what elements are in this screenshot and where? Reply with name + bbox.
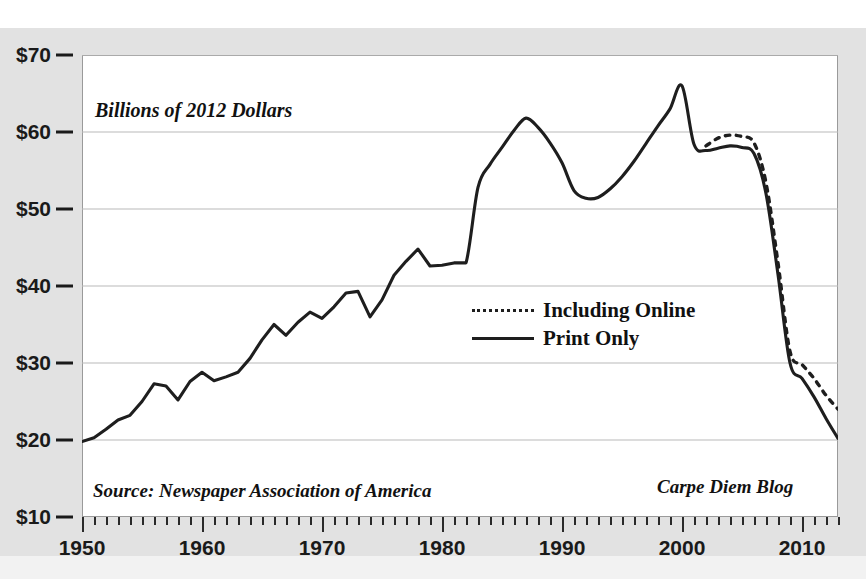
- x-tick-1986: [514, 517, 516, 525]
- x-tick-1987: [526, 517, 528, 525]
- y-axis-label-10: $10: [16, 505, 51, 529]
- y-axis-tick-60: [56, 131, 73, 134]
- x-tick-1964: [250, 517, 252, 525]
- x-tick-1957: [166, 517, 168, 525]
- legend-label-including-online: Including Online: [543, 298, 695, 323]
- y-axis-label-50: $50: [16, 197, 51, 221]
- y-axis-tick-20: [56, 439, 73, 442]
- x-tick-1958: [178, 517, 180, 525]
- y-axis-tick-70: [56, 54, 73, 57]
- x-axis-label-1970: 1970: [299, 536, 346, 560]
- series-line-print-only: [82, 85, 838, 442]
- x-tick-1967: [286, 517, 288, 525]
- x-tick-1997: [646, 517, 648, 525]
- y-axis-title: Billions of 2012 Dollars: [95, 99, 292, 122]
- legend-swatch-dashed-icon: [472, 309, 534, 312]
- x-tick-1959: [190, 517, 192, 525]
- x-tick-1983: [478, 517, 480, 525]
- x-tick-1996: [634, 517, 636, 525]
- x-tick-1973: [358, 517, 360, 525]
- x-axis-label-1960: 1960: [179, 536, 226, 560]
- x-tick-1968: [298, 517, 300, 525]
- chart-screenshot: $10$20$30$40$50$60$70 195019601970198019…: [0, 0, 866, 579]
- x-tick-1999: [670, 517, 672, 525]
- y-axis-tick-50: [56, 208, 73, 211]
- x-tick-2010: [802, 517, 804, 532]
- x-tick-1993: [598, 517, 600, 525]
- x-axis-label-2000: 2000: [659, 536, 706, 560]
- legend-item-including-online: Including Online: [472, 296, 695, 324]
- x-tick-1978: [418, 517, 420, 525]
- x-tick-1979: [430, 517, 432, 525]
- x-tick-1985: [502, 517, 504, 525]
- y-axis-tick-10: [56, 516, 73, 519]
- x-tick-1974: [370, 517, 372, 525]
- x-tick-1980: [442, 517, 444, 532]
- x-tick-2003: [718, 517, 720, 525]
- y-axis-tick-30: [56, 362, 73, 365]
- chart-plot-area: [82, 55, 838, 517]
- x-tick-1971: [334, 517, 336, 525]
- x-tick-1961: [214, 517, 216, 525]
- x-tick-2008: [778, 517, 780, 525]
- y-axis-label-30: $30: [16, 351, 51, 375]
- x-tick-1982: [466, 517, 468, 525]
- x-tick-1952: [106, 517, 108, 525]
- x-tick-1976: [394, 517, 396, 525]
- x-tick-2000: [682, 517, 684, 532]
- x-tick-2004: [730, 517, 732, 525]
- x-tick-1990: [562, 517, 564, 532]
- x-tick-1975: [382, 517, 384, 525]
- x-tick-2005: [742, 517, 744, 525]
- x-tick-2009: [790, 517, 792, 525]
- series-line-including-online: [706, 135, 838, 409]
- x-tick-1955: [142, 517, 144, 525]
- x-tick-1994: [610, 517, 612, 525]
- x-tick-1981: [454, 517, 456, 525]
- blog-attribution: Carpe Diem Blog: [657, 476, 793, 498]
- x-tick-2001: [694, 517, 696, 525]
- x-tick-1992: [586, 517, 588, 525]
- source-note: Source: Newspaper Association of America: [93, 480, 431, 502]
- x-tick-1972: [346, 517, 348, 525]
- x-tick-1977: [406, 517, 408, 525]
- y-axis: $10$20$30$40$50$60$70: [0, 0, 82, 579]
- x-axis-label-1990: 1990: [539, 536, 586, 560]
- x-tick-2002: [706, 517, 708, 525]
- x-tick-1950: [82, 517, 84, 532]
- x-tick-1989: [550, 517, 552, 525]
- y-axis-label-70: $70: [16, 43, 51, 67]
- x-tick-2011: [814, 517, 816, 525]
- x-tick-1954: [130, 517, 132, 525]
- x-tick-2012: [826, 517, 828, 525]
- x-tick-1963: [238, 517, 240, 525]
- x-tick-1966: [274, 517, 276, 525]
- legend-item-print-only: Print Only: [472, 324, 695, 352]
- x-tick-2006: [754, 517, 756, 525]
- chart-legend: Including Online Print Only: [472, 296, 695, 352]
- x-tick-1956: [154, 517, 156, 525]
- x-tick-1998: [658, 517, 660, 525]
- y-axis-label-40: $40: [16, 274, 51, 298]
- x-tick-1969: [310, 517, 312, 525]
- x-tick-1970: [322, 517, 324, 532]
- x-tick-2007: [766, 517, 768, 525]
- x-tick-1984: [490, 517, 492, 525]
- x-axis-label-2010: 2010: [779, 536, 826, 560]
- x-tick-1951: [94, 517, 96, 525]
- x-tick-1965: [262, 517, 264, 525]
- x-tick-1995: [622, 517, 624, 525]
- y-axis-label-20: $20: [16, 428, 51, 452]
- y-axis-tick-40: [56, 285, 73, 288]
- y-axis-label-60: $60: [16, 120, 51, 144]
- x-tick-1962: [226, 517, 228, 525]
- x-tick-1991: [574, 517, 576, 525]
- x-axis-label-1950: 1950: [59, 536, 106, 560]
- x-axis-label-1980: 1980: [419, 536, 466, 560]
- x-tick-2013: [838, 517, 840, 525]
- x-tick-1953: [118, 517, 120, 525]
- x-tick-1988: [538, 517, 540, 525]
- x-axis-tick-marks: [82, 517, 842, 535]
- legend-swatch-solid-icon: [472, 337, 534, 340]
- x-tick-1960: [202, 517, 204, 532]
